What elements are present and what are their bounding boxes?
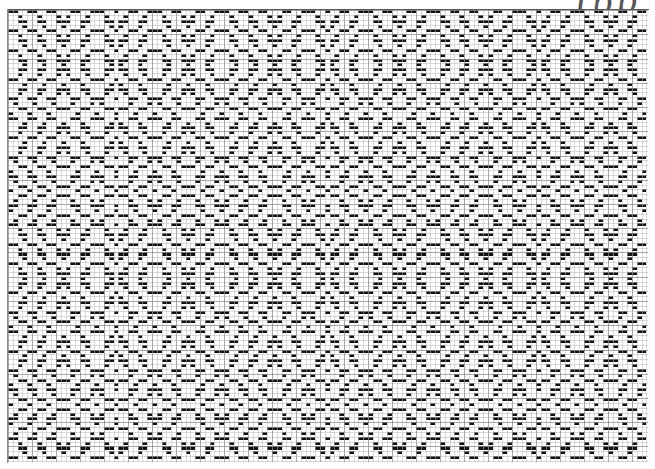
draft-page: Ipp bbox=[0, 0, 655, 469]
draft-pattern-canvas bbox=[8, 10, 648, 462]
weaving-draft-grid bbox=[8, 10, 648, 462]
